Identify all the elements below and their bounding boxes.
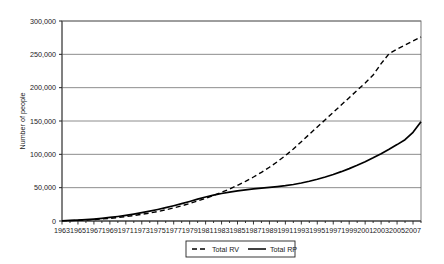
x-tick-label: 1969 [102, 226, 118, 235]
x-tick-label: 1965 [70, 226, 86, 235]
legend-label-total-rp: Total RP [270, 245, 297, 254]
x-tick-label: 2005 [389, 226, 405, 235]
x-tick-label: 1987 [245, 226, 261, 235]
x-tick-label: 1979 [182, 226, 198, 235]
x-tick-label: 1983 [214, 226, 230, 235]
x-tick-label: 1993 [293, 226, 309, 235]
y-tick-label: 250,000 [30, 50, 56, 59]
x-tick-label: 1989 [261, 226, 277, 235]
y-tick-label: 100,000 [30, 150, 56, 159]
x-tick-label: 1977 [166, 226, 182, 235]
chart-legend: Total RV Total RP [186, 241, 297, 257]
x-tick-label: 1971 [118, 226, 134, 235]
x-tick-label: 1997 [325, 226, 341, 235]
x-tick-label: 1991 [277, 226, 293, 235]
x-tick-label: 1975 [150, 226, 166, 235]
legend-label-total-rv: Total RV [212, 245, 239, 254]
x-tick-label: 1981 [198, 226, 214, 235]
x-tick-label: 1995 [309, 226, 325, 235]
x-tick-label: 2003 [373, 226, 389, 235]
y-axis-title: Number of people [18, 92, 27, 149]
y-tick-label: 50,000 [34, 183, 56, 192]
x-axis-ticks: 1963196519671969197119731975197719791981… [54, 221, 421, 235]
y-tick-label: 200,000 [30, 83, 56, 92]
y-axis-ticks: 050,000100,000150,000200,000250,000300,0… [30, 17, 62, 226]
x-tick-label: 1973 [134, 226, 150, 235]
x-tick-label: 2001 [357, 226, 373, 235]
line-chart: 050,000100,000150,000200,000250,000300,0… [0, 0, 444, 264]
x-tick-label: 2007 [405, 226, 421, 235]
y-tick-label: 300,000 [30, 17, 56, 26]
x-tick-label: 1967 [86, 226, 102, 235]
x-tick-label: 1985 [230, 226, 246, 235]
chart-figure: 050,000100,000150,000200,000250,000300,0… [0, 0, 444, 264]
x-tick-label: 1963 [54, 226, 70, 235]
y-tick-label: 150,000 [30, 117, 56, 126]
y-tick-label: 0 [52, 217, 56, 226]
x-tick-label: 1999 [341, 226, 357, 235]
